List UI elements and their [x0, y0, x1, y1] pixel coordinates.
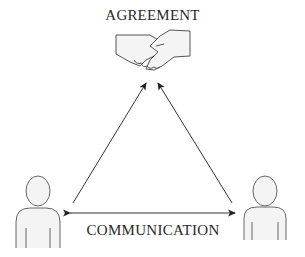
diagram-graphics — [0, 0, 305, 257]
handshake-icon — [116, 30, 190, 70]
arrow-right-to-agreement — [158, 83, 232, 203]
communication-label: COMMUNICATION — [70, 222, 236, 239]
person-icon-left — [16, 176, 60, 248]
person-icon-right — [244, 176, 286, 240]
arrow-left-to-agreement — [73, 83, 146, 203]
agreement-communication-diagram: AGREEMENT — [0, 0, 305, 257]
